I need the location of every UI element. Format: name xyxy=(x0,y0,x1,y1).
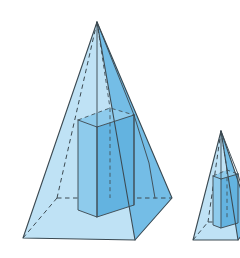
large-inscribed-prism xyxy=(78,108,134,217)
small-prism-front-face xyxy=(213,176,221,228)
figure-canvas: Two similar square pyramids each contain… xyxy=(0,0,240,258)
large-prism-front-face xyxy=(78,120,97,217)
pyramids-diagram: Two similar square pyramids each contain… xyxy=(0,0,240,258)
small-square-pyramid xyxy=(193,131,240,240)
large-square-pyramid xyxy=(23,22,172,240)
